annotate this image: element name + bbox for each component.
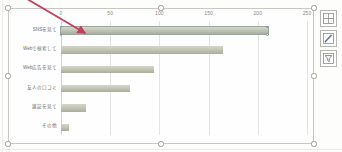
chart-row: その他 — [9, 118, 305, 137]
chart-filters-button[interactable] — [320, 50, 337, 67]
category-label: 雑誌を見て — [9, 105, 59, 110]
data-point-handle[interactable] — [266, 26, 269, 29]
selection-handle-bottom-center[interactable] — [158, 141, 163, 146]
gridline-250 — [307, 21, 308, 135]
plus-icon — [323, 13, 334, 24]
selection-handle-middle-left[interactable] — [5, 73, 10, 78]
selection-handle-top-left[interactable] — [5, 5, 10, 10]
chart-row: 友人の口コミ — [9, 79, 305, 98]
category-rows: SNSを見てWebで検索してWeb広告を見て友人の口コミ雑誌を見てその他 — [9, 21, 305, 135]
bar-4[interactable] — [61, 85, 130, 92]
screenshot-root: 050100150200250 SNSを見てWebで検索してWeb広告を見て友人… — [0, 0, 342, 152]
data-point-handle[interactable] — [266, 33, 269, 36]
brush-icon — [323, 33, 334, 44]
axis-tick-label: 0 — [60, 10, 63, 16]
selection-handle-top-right[interactable] — [311, 5, 316, 10]
chart-row: Webで検索して — [9, 40, 305, 59]
funnel-icon — [323, 53, 334, 64]
selection-handle-middle-right[interactable] — [311, 73, 316, 78]
data-point-handle[interactable] — [60, 26, 63, 29]
chart-object[interactable]: 050100150200250 SNSを見てWebで検索してWeb広告を見て友人… — [8, 8, 314, 144]
page-edge-bottom — [0, 149, 342, 150]
category-label: Web広告を見て — [9, 66, 59, 71]
bar-1[interactable] — [61, 27, 268, 34]
chart-quick-buttons — [320, 10, 337, 67]
axis-tick-label: 150 — [204, 10, 213, 16]
category-label: Webで検索して — [9, 47, 59, 52]
chart-row: 雑誌を見て — [9, 98, 305, 117]
value-axis: 050100150200250 — [61, 10, 305, 21]
selection-handle-bottom-left[interactable] — [5, 141, 10, 146]
chart-row: SNSを見て — [9, 21, 305, 40]
bar-2[interactable] — [61, 46, 223, 53]
bar-5[interactable] — [61, 104, 86, 111]
category-label: その他 — [9, 124, 59, 129]
bar-6[interactable] — [61, 124, 69, 131]
category-label: 友人の口コミ — [9, 86, 59, 91]
chart-styles-button[interactable] — [320, 30, 337, 47]
selection-handle-bottom-right[interactable] — [311, 141, 316, 146]
chart-row: Web広告を見て — [9, 60, 305, 79]
plot-area[interactable]: 050100150200250 SNSを見てWebで検索してWeb広告を見て友人… — [9, 9, 313, 143]
axis-tick-label: 200 — [253, 10, 262, 16]
axis-tick-label: 250 — [303, 10, 312, 16]
axis-tick-label: 100 — [155, 10, 164, 16]
chart-elements-button[interactable] — [320, 10, 337, 27]
page-edge-left — [2, 0, 3, 152]
data-point-handle[interactable] — [60, 33, 63, 36]
selection-handle-top-center[interactable] — [158, 5, 163, 10]
axis-tick-label: 50 — [107, 10, 113, 16]
category-label: SNSを見て — [9, 28, 59, 33]
bar-3[interactable] — [61, 66, 154, 73]
